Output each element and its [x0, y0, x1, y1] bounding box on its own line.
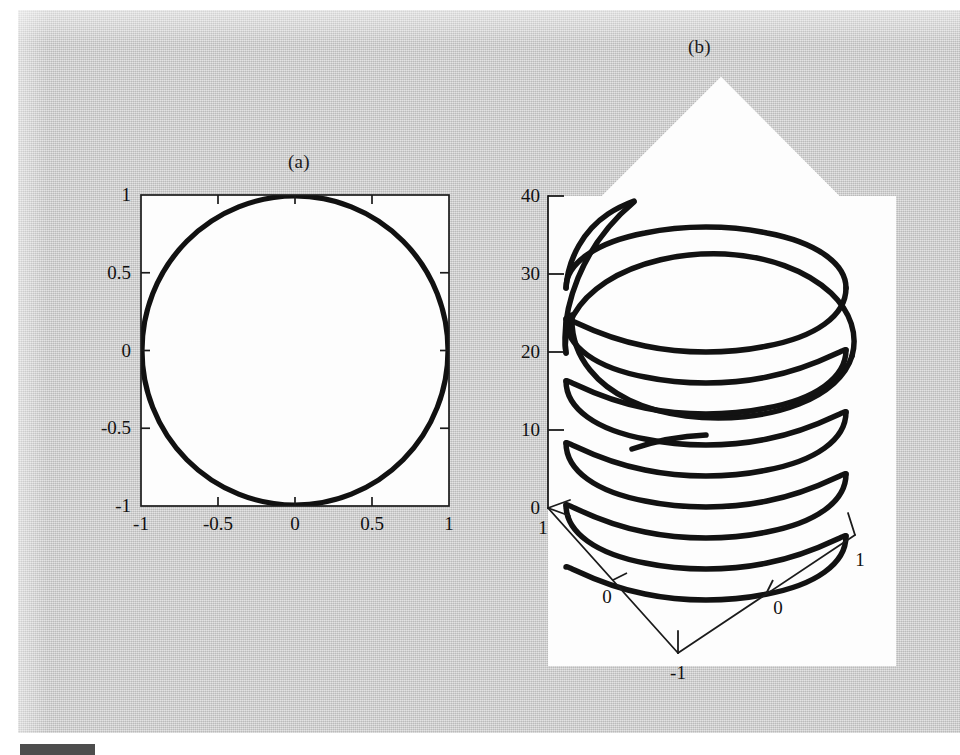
panel-b-caption: (b) [688, 36, 711, 58]
panel-a-caption: (a) [288, 151, 310, 173]
panel-b-ytick-label-1: 1 [538, 517, 548, 539]
panel-b-ytick-label-neg1: -1 [670, 662, 686, 684]
panel-b-xtick-label-0: 0 [773, 597, 783, 619]
panel-b-ztick-label-40: 40 [521, 185, 540, 207]
panel-b-plot [548, 77, 896, 666]
panel-a-ytick-label-4: -0.5 [101, 417, 131, 439]
panel-a-ytick-label-1: 1 [122, 184, 132, 206]
panel-b-xtick-label-1: 1 [855, 549, 865, 571]
panel-a-xtick-label-3: 0 [290, 513, 300, 535]
panel-a-xtick-label-2: -0.5 [203, 513, 233, 535]
panel-b-ztick-label-30: 30 [521, 263, 540, 285]
footer-marker-bar [20, 744, 95, 755]
figure-canvas [0, 0, 960, 755]
panel-a-xtick-label-1: -1 [133, 513, 149, 535]
panel-b-ztick-label-0: 0 [531, 497, 541, 519]
panel-a-xtick-label-4: 0.5 [360, 513, 384, 535]
helix-final [548, 77, 896, 666]
panel-a-ytick-label-2: 0.5 [107, 262, 131, 284]
panel-a-plot [141, 195, 449, 506]
panel-b-ytick-label-0: 0 [602, 586, 612, 608]
panel-a-ytick-label-5: -1 [115, 495, 131, 517]
panel-a-xtick-label-5: 1 [444, 513, 454, 535]
panel-b-ztick-label-10: 10 [521, 419, 540, 441]
figure-page: (a) (b) 1 0.5 0 -0.5 -1 -1 -0.5 0 0.5 1 … [0, 0, 960, 755]
panel-b-ztick-label-20: 20 [521, 341, 540, 363]
panel-a-ytick-label-3: 0 [122, 340, 132, 362]
